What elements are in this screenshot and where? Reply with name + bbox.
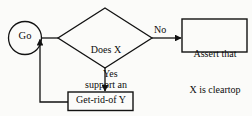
- node-getrid-rect[interactable]: [68, 92, 133, 111]
- node-start-circle[interactable]: [9, 22, 42, 55]
- edge-getrid-to-decision: [40, 40, 68, 103]
- node-assert-rect[interactable]: [182, 19, 247, 52]
- flowchart-canvas: Go Does X support an object Y? Assert th…: [0, 0, 252, 116]
- node-decision-diamond[interactable]: [58, 8, 152, 68]
- flowchart-graphics: [0, 0, 252, 116]
